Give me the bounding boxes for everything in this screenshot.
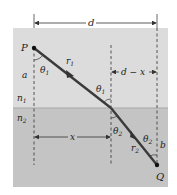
point-Q: [155, 163, 159, 167]
d-label: d: [88, 17, 94, 28]
x-label: x: [70, 132, 75, 142]
P-label: P: [20, 42, 28, 53]
medium-n2: [13, 108, 168, 187]
a-label: a: [22, 70, 27, 80]
refraction-diagram: d d − x x P Q θ1 θ1 θ2 θ2 r1 r2 a b n1 n…: [0, 0, 177, 195]
Q-label: Q: [156, 171, 164, 182]
point-P: [32, 46, 36, 50]
d-minus-x-label: d − x: [121, 67, 145, 77]
b-label: b: [160, 140, 166, 150]
